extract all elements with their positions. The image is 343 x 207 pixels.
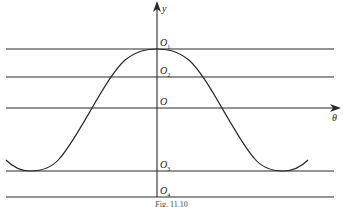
theta-axis-label: θ [332, 113, 337, 123]
label-o1: O1 [160, 38, 170, 50]
figure-caption: Fig. 11.10 [0, 200, 343, 207]
label-o3: O3 [160, 160, 170, 172]
label-o2: O2 [160, 66, 170, 78]
diagram-canvas [0, 0, 343, 207]
y-axis-label: y [162, 4, 166, 14]
label-o: O [160, 97, 167, 107]
label-o4: O4 [160, 186, 170, 198]
